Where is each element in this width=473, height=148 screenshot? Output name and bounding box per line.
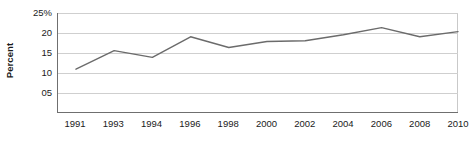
x-tick-label-2004: 2004 (333, 119, 354, 129)
y-tick-label-10: 10 (16, 68, 52, 78)
x-tick-label-1991: 1991 (64, 119, 85, 129)
x-tick-label-1998: 1998 (218, 119, 239, 129)
x-tick-label-2002: 2002 (294, 119, 315, 129)
plot-area (57, 13, 458, 113)
series-line (58, 13, 458, 112)
x-tick-label-1993: 1993 (103, 119, 124, 129)
x-tick-label-2006: 2006 (371, 119, 392, 129)
x-tick-label-1994: 1994 (141, 119, 162, 129)
line-chart: Percent 25%20151005 19911993199419961998… (0, 0, 473, 148)
x-tick-label-2000: 2000 (256, 119, 277, 129)
x-axis-tick-labels: 1991199319941996199820002002200420062008… (0, 119, 473, 139)
y-axis-title-text: Percent (5, 42, 16, 78)
y-tick-label-20: 20 (16, 28, 52, 38)
x-tick-label-1996: 1996 (179, 119, 200, 129)
y-tick-label-25: 25% (16, 8, 52, 18)
x-tick-label-2008: 2008 (409, 119, 430, 129)
y-tick-label-05: 05 (16, 88, 52, 98)
y-tick-label-15: 15 (16, 48, 52, 58)
series-polyline-percent (76, 28, 458, 70)
x-tick-label-2010: 2010 (447, 119, 468, 129)
